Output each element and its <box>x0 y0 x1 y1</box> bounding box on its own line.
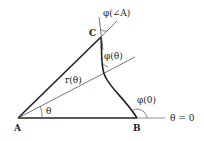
label-phi-zero: φ(0) <box>137 95 156 105</box>
label-phi-theta: φ(θ) <box>104 51 123 61</box>
point-label-c: C <box>89 28 96 38</box>
angle-arc-theta <box>40 106 42 118</box>
curve-cb <box>101 37 137 118</box>
label-r-theta: r(θ) <box>65 75 82 85</box>
side-ac <box>18 37 101 118</box>
label-theta-zero: θ = 0 <box>170 113 195 123</box>
ray-ac-extension <box>101 21 117 37</box>
point-label-b: B <box>133 123 141 133</box>
label-phi-angle-a: φ(∠A) <box>103 8 130 18</box>
diagram-canvas: φ(∠A) φ(θ) φ(0) r(θ) θ θ = 0 A B C <box>0 0 204 141</box>
ray-r-theta <box>18 57 135 118</box>
point-label-a: A <box>13 123 22 133</box>
label-theta: θ <box>46 106 51 116</box>
angle-arc-b <box>133 109 147 118</box>
